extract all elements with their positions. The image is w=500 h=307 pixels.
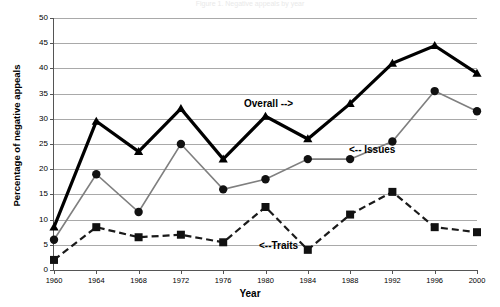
data-point-traits-1964 [92,223,100,231]
data-point-traits-1972 [177,231,185,239]
y-tick-label: 0 [26,266,48,274]
x-tick-label: 1988 [330,276,370,285]
data-point-issues-2000 [473,107,481,115]
data-point-issues-1996 [431,87,439,95]
x-tick-label: 1960 [34,276,74,285]
x-axis-title: Year [0,288,500,299]
x-tick-label: 1984 [288,276,328,285]
data-point-issues-1968 [134,208,142,216]
data-point-issues-1976 [219,185,227,193]
y-tick-label: 35 [26,90,48,98]
data-point-issues-1960 [50,236,58,244]
x-tick-mark [266,270,267,274]
x-tick-mark [477,270,478,274]
annotation-issues: <-- Issues [349,144,395,155]
y-tick-label: 40 [26,64,48,72]
y-tick-label: 20 [26,165,48,173]
y-tick-label: 50 [26,14,48,22]
data-point-traits-1988 [346,211,354,219]
data-point-traits-1976 [219,238,227,246]
data-point-overall-1980 [261,112,270,120]
x-tick-label: 1968 [119,276,159,285]
x-tick-label: 1964 [76,276,116,285]
x-tick-mark [308,270,309,274]
data-point-overall-1972 [176,104,185,112]
data-point-issues-1980 [261,175,269,183]
y-tick-label: 45 [26,39,48,47]
x-tick-label: 1972 [161,276,201,285]
data-point-traits-1960 [50,256,58,264]
chart-figure: Figure 1. Negative appeals by year Perce… [0,0,500,307]
data-point-overall-1996 [430,41,439,49]
data-point-overall-1964 [92,117,101,125]
x-tick-mark [350,270,351,274]
x-tick-mark [96,270,97,274]
data-point-traits-1984 [304,246,312,254]
x-tick-mark [139,270,140,274]
y-tick-label: 25 [26,140,48,148]
x-tick-mark [54,270,55,274]
y-axis-title: Percentage of negative appeals [11,16,22,256]
data-point-traits-2000 [473,228,481,236]
x-tick-mark [392,270,393,274]
series-layer [54,18,477,270]
y-tick-label: 15 [26,190,48,198]
data-point-traits-1996 [431,223,439,231]
x-tick-label: 1976 [203,276,243,285]
annotation-traits: <--Traits [259,240,298,251]
data-point-traits-1968 [135,233,143,241]
data-point-issues-1964 [92,170,100,178]
x-tick-label: 2000 [457,276,497,285]
plot-area: 05101520253035404550 1960196419681972197… [54,18,477,270]
figure-caption-cut: Figure 1. Negative appeals by year [0,0,500,8]
data-point-overall-1960 [49,223,58,231]
x-tick-label: 1992 [372,276,412,285]
x-tick-mark [223,270,224,274]
x-tick-mark [435,270,436,274]
y-tick-label: 5 [26,241,48,249]
y-tick-label: 10 [26,216,48,224]
data-point-issues-1972 [177,140,185,148]
x-tick-label: 1996 [415,276,455,285]
data-point-issues-1984 [304,155,312,163]
annotation-overall: Overall --> [244,98,293,109]
data-point-traits-1980 [262,203,270,211]
x-tick-mark [181,270,182,274]
y-tick-label: 30 [26,115,48,123]
series-line-overall [54,46,477,227]
data-point-traits-1992 [388,188,396,196]
x-tick-label: 1980 [246,276,286,285]
data-point-issues-1988 [346,155,354,163]
